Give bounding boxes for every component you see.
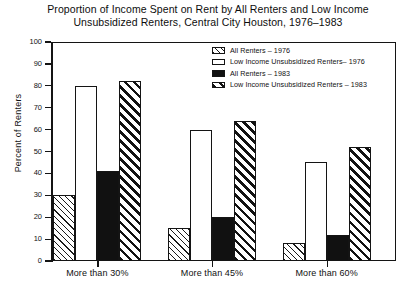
bar [53, 195, 75, 261]
bar [327, 235, 349, 261]
y-axis-tick [45, 173, 51, 174]
legend-item: All Renters – 1983 [212, 68, 392, 79]
y-axis-tick [45, 107, 51, 108]
legend-item-label: Low Income Unsubsidized Renters – 1983 [230, 81, 367, 89]
x-axis-tick [327, 261, 328, 267]
y-axis-tick-label: 90 [16, 60, 42, 68]
y-axis-tick [45, 239, 51, 240]
chart-container: Proportion of Income Spent on Rent by Al… [0, 0, 412, 289]
legend-item: All Renters – 1976 [212, 45, 392, 56]
bar [75, 86, 97, 261]
legend-item: Low Income Unsubsidized Renters– 1976 [212, 57, 392, 68]
y-axis-tick [45, 151, 51, 152]
x-axis-tick [212, 261, 213, 267]
y-axis-tick-label: 10 [16, 235, 42, 243]
y-axis-title: Percent of Renters [13, 78, 23, 188]
y-axis-tick [45, 195, 51, 196]
bar [119, 81, 141, 261]
bar [190, 130, 212, 261]
y-axis-tick [45, 260, 51, 261]
legend-swatch-icon [212, 82, 225, 89]
bar [168, 228, 190, 261]
x-axis-tick [97, 261, 98, 267]
y-axis-tick [45, 63, 51, 64]
bar [283, 243, 305, 261]
y-axis-tick [45, 85, 51, 86]
chart-title: Proportion of Income Spent on Rent by Al… [28, 3, 388, 29]
x-axis-group-label: More than 60% [277, 268, 377, 278]
legend-item-label: All Renters – 1983 [230, 70, 290, 78]
bar [349, 147, 371, 261]
bar [212, 217, 234, 261]
bar [305, 162, 327, 261]
bar [97, 171, 119, 261]
x-axis-group-label: More than 45% [162, 268, 262, 278]
bar [234, 121, 256, 261]
y-axis-tick [45, 41, 51, 42]
y-axis-tick-label: 20 [16, 213, 42, 221]
legend-swatch-icon [212, 70, 225, 77]
y-axis-tick [45, 217, 51, 218]
chart-legend: All Renters – 1976Low Income Unsubsidize… [212, 45, 392, 91]
legend-item-label: Low Income Unsubsidized Renters– 1976 [230, 58, 365, 66]
y-axis-tick-label: 30 [16, 191, 42, 199]
y-axis-tick-label: 0 [16, 257, 42, 265]
y-axis-tick [45, 129, 51, 130]
legend-item-label: All Renters – 1976 [230, 47, 290, 55]
legend-swatch-icon [212, 59, 225, 66]
y-axis-tick-label: 100 [16, 38, 42, 46]
legend-item: Low Income Unsubsidized Renters – 1983 [212, 80, 392, 91]
legend-swatch-icon [212, 47, 225, 54]
x-axis-group-label: More than 30% [47, 268, 147, 278]
